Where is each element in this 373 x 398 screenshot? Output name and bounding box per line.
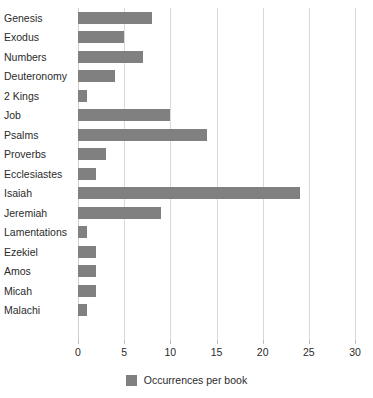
bar-row xyxy=(78,262,355,282)
bar xyxy=(78,246,96,258)
plot-area xyxy=(78,8,355,340)
category-label: Ezekiel xyxy=(0,242,72,262)
legend-swatch xyxy=(126,375,137,386)
category-label: Micah xyxy=(0,281,72,301)
bar-row xyxy=(78,164,355,184)
bar xyxy=(78,90,87,102)
x-tick-label: 5 xyxy=(121,346,127,358)
x-tick-mark xyxy=(124,340,125,344)
x-tick-mark xyxy=(309,340,310,344)
x-tick-mark xyxy=(217,340,218,344)
category-label: Proverbs xyxy=(0,145,72,165)
bar xyxy=(78,109,170,121)
bar xyxy=(78,31,124,43)
bar xyxy=(78,187,300,199)
category-label: Genesis xyxy=(0,8,72,28)
category-label: Numbers xyxy=(0,47,72,67)
bar xyxy=(78,70,115,82)
bar xyxy=(78,148,106,160)
bar-row xyxy=(78,203,355,223)
bar-row xyxy=(78,86,355,106)
bar xyxy=(78,129,207,141)
category-label: Ecclesiastes xyxy=(0,164,72,184)
category-label: Psalms xyxy=(0,125,72,145)
bar-row xyxy=(78,301,355,321)
bar-rows xyxy=(78,8,355,340)
bar xyxy=(78,207,161,219)
x-tick-label: 0 xyxy=(75,346,81,358)
bar xyxy=(78,265,96,277)
x-tick-mark xyxy=(355,340,356,344)
category-label: Amos xyxy=(0,262,72,282)
x-tick-mark xyxy=(170,340,171,344)
bar-row xyxy=(78,47,355,67)
bar-row xyxy=(78,28,355,48)
category-axis-labels: GenesisExodusNumbersDeuteronomy2 KingsJo… xyxy=(0,8,72,340)
bar-row xyxy=(78,106,355,126)
x-tick-label: 25 xyxy=(303,346,315,358)
bar-row xyxy=(78,8,355,28)
category-label: Deuteronomy xyxy=(0,67,72,87)
bar xyxy=(78,226,87,238)
bar xyxy=(78,285,96,297)
bar-row xyxy=(78,125,355,145)
bar-chart: GenesisExodusNumbersDeuteronomy2 KingsJo… xyxy=(0,0,373,398)
x-tick-label: 20 xyxy=(257,346,269,358)
x-axis: 051015202530 xyxy=(78,340,355,362)
x-tick-mark xyxy=(263,340,264,344)
bar-row xyxy=(78,242,355,262)
category-label: Isaiah xyxy=(0,184,72,204)
x-tick-mark xyxy=(78,340,79,344)
category-label: Malachi xyxy=(0,301,72,321)
bar-row xyxy=(78,223,355,243)
bar-row xyxy=(78,184,355,204)
gridline-30 xyxy=(355,8,356,340)
legend: Occurrences per book xyxy=(0,374,373,386)
x-tick-label: 10 xyxy=(164,346,176,358)
x-tick-label: 30 xyxy=(349,346,361,358)
category-label: Exodus xyxy=(0,28,72,48)
bar-row xyxy=(78,281,355,301)
bar xyxy=(78,304,87,316)
category-label: Lamentations xyxy=(0,223,72,243)
bar xyxy=(78,51,143,63)
bar-row xyxy=(78,67,355,87)
category-label: Job xyxy=(0,106,72,126)
bar xyxy=(78,168,96,180)
legend-label: Occurrences per book xyxy=(144,374,247,386)
category-label: 2 Kings xyxy=(0,86,72,106)
x-tick-label: 15 xyxy=(211,346,223,358)
category-label: Jeremiah xyxy=(0,203,72,223)
bar-row xyxy=(78,145,355,165)
bar xyxy=(78,12,152,24)
